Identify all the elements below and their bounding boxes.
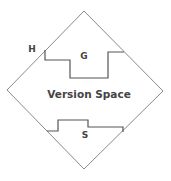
version-space-diagram: H G Version Space S (0, 0, 171, 181)
hypothesis-space-label: H (28, 44, 36, 54)
version-space-label: Version Space (47, 88, 131, 100)
specific-boundary-label: S (82, 130, 88, 140)
general-boundary-label: G (80, 51, 87, 61)
